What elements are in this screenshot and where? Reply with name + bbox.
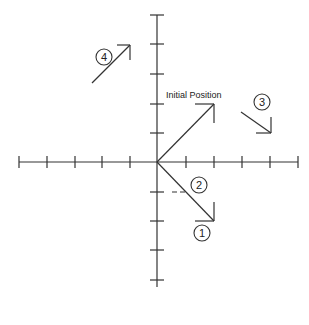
- vector-diagram: Initial Position 1 2 3 4: [0, 0, 309, 325]
- vector-position-1: [157, 162, 214, 221]
- circle-label-2: 2: [191, 177, 207, 193]
- vector-initial-position: [157, 104, 214, 162]
- vector-position-4: [92, 45, 130, 83]
- circle-label-1: 1: [194, 225, 210, 241]
- svg-text:3: 3: [259, 96, 265, 108]
- svg-text:4: 4: [101, 51, 107, 63]
- circle-label-3: 3: [254, 94, 270, 110]
- vector-position-3: [241, 112, 271, 133]
- svg-text:1: 1: [199, 227, 205, 239]
- initial-position-label: Initial Position: [166, 90, 222, 100]
- svg-text:2: 2: [196, 179, 202, 191]
- circle-label-4: 4: [96, 49, 112, 65]
